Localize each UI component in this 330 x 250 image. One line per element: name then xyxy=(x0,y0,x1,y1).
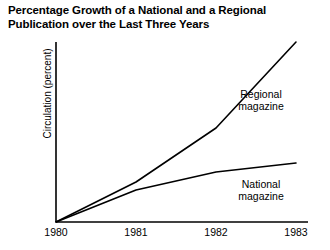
x-tick-label-1983: 1983 xyxy=(276,226,316,238)
x-tick-label-1981: 1981 xyxy=(116,226,156,238)
x-tick-label-1980: 1980 xyxy=(36,226,76,238)
chart-figure: Percentage Growth of a National and a Re… xyxy=(0,0,330,250)
x-tick-label-1982: 1982 xyxy=(196,226,236,238)
y-axis-label: Circulation (percent) xyxy=(42,19,53,169)
series-label-regional-magazine: Regional magazine xyxy=(228,88,294,112)
series-label-national-magazine: National magazine xyxy=(228,178,294,202)
